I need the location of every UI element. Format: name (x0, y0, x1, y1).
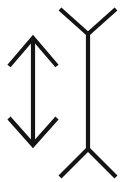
canvas-background (0, 0, 123, 182)
drawing-canvas: Black line drawing of a double-headed ar… (0, 0, 123, 182)
figure-svg (0, 0, 123, 182)
